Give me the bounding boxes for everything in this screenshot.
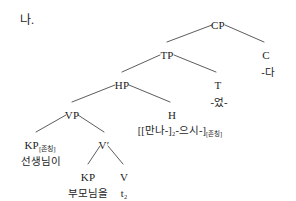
- tree-edge-vbar-v: [108, 146, 123, 164]
- tree-node-tp: TP: [160, 50, 173, 61]
- tree-edge-cp-c: [225, 25, 264, 42]
- node-label-text: TP: [160, 49, 173, 61]
- node-label-text: V: [120, 171, 128, 183]
- tree-terminal-t: -었-: [211, 98, 228, 109]
- terminal-text: t₂: [121, 188, 128, 199]
- tree-terminal-v: t₂: [121, 189, 128, 200]
- tree-edges: [0, 0, 296, 201]
- tree-node-kp2: KP: [81, 172, 95, 183]
- node-label-text: HP: [115, 79, 129, 91]
- tree-terminal-kp2: 부모님을: [68, 189, 108, 200]
- terminal-text: -다: [261, 67, 275, 78]
- tree-node-v: V: [120, 172, 128, 183]
- node-label-text: KP: [81, 171, 95, 183]
- tree-terminal-h: [[만나-]₂-으시-][존칭]: [138, 126, 222, 137]
- tree-node-t: T: [215, 80, 222, 91]
- node-label-text: V′: [99, 139, 110, 151]
- tree-edge-hp-vp: [72, 85, 115, 102]
- tree-node-h: H: [168, 110, 176, 121]
- terminal-subscript: [존칭]: [206, 130, 222, 137]
- node-subscript: [존칭]: [39, 145, 56, 153]
- tree-terminal-c: -다: [261, 68, 275, 79]
- node-label-text: H: [168, 109, 176, 121]
- tree-node-hp: HP: [115, 80, 129, 91]
- tree-node-c: C: [262, 50, 270, 61]
- terminal-text: -었-: [211, 97, 228, 108]
- tree-terminal-kp1: 선생님이: [21, 157, 61, 168]
- tree-edge-cp-tp: [167, 25, 212, 42]
- node-label-text: VP: [65, 109, 79, 121]
- node-label-text: CP: [211, 19, 225, 31]
- tree-edge-tp-t: [174, 55, 216, 72]
- node-label-text: C: [262, 49, 270, 61]
- tree-edge-tp-hp: [122, 55, 160, 72]
- tree-node-vp: VP: [65, 110, 79, 121]
- terminal-text: 부모님을: [68, 188, 108, 199]
- node-label-text: KP: [24, 139, 38, 151]
- node-label-text: T: [215, 79, 222, 91]
- tree-node-cp: CP: [211, 20, 225, 31]
- tree-node-kp1: KP[존칭]: [24, 140, 55, 151]
- tree-edge-vp-kp1: [36, 115, 66, 132]
- terminal-text: 선생님이: [21, 156, 61, 167]
- tree-edge-hp-h: [129, 85, 170, 102]
- tree-node-vbar: V′: [99, 140, 110, 151]
- item-label: 나.: [20, 14, 34, 26]
- tree-edge-vp-vbar: [78, 115, 104, 132]
- terminal-text: [[만나-]₂-으시-]: [138, 125, 206, 136]
- syntax-tree-figure: 나. CPTPCHPTVPHKP[존칭]V′KPV -다-었-[[만나-]₂-으…: [0, 0, 296, 201]
